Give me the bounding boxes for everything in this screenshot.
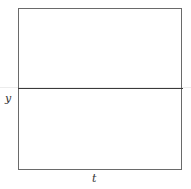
x-axis-label: t bbox=[92, 172, 96, 185]
y-axis-label: y bbox=[5, 92, 11, 105]
horizontal-axis-line bbox=[18, 88, 183, 89]
plot-area bbox=[18, 8, 182, 170]
